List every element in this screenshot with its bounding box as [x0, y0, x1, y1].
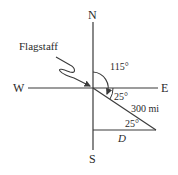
triangle-angle-label: 25°	[125, 118, 139, 129]
east-label: E	[161, 81, 168, 95]
flagstaff-squiggle-arrow	[56, 57, 90, 86]
compass-diagram: N S W E Flagstaff 115° 25° 300 mi 25° D	[0, 0, 178, 175]
flagstaff-label: Flagstaff	[19, 40, 58, 52]
distance-label: 300 mi	[131, 103, 159, 114]
unknown-d-label: D	[117, 132, 126, 144]
west-label: W	[13, 81, 25, 95]
bearing-arc	[93, 72, 108, 94]
bearing-angle-label: 115°	[110, 61, 129, 72]
south-label: S	[89, 152, 96, 166]
north-label: N	[88, 8, 97, 22]
angle-arc-east	[110, 88, 113, 99]
angle-below-east-label: 25°	[114, 91, 128, 102]
